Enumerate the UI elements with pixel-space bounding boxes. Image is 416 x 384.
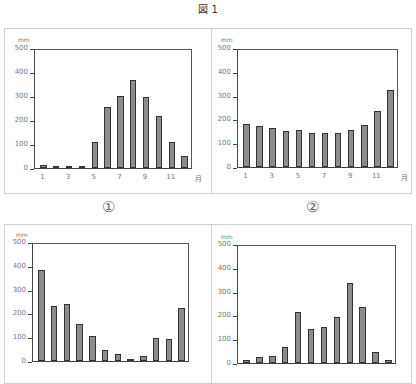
bar-month-2 [51,306,57,361]
bar-month-10 [156,116,162,168]
bar-month-6 [102,350,108,361]
y-tick-label: 300 [4,286,26,294]
y-tick-label: 200 [209,115,231,123]
bar-month-12 [181,156,187,168]
x-tick-label: 11 [164,173,178,181]
x-tick-label: 7 [317,172,331,180]
y-unit-label: mm [221,36,233,43]
y-unit-label: mm [16,231,28,238]
caption-chart-1: ① [88,198,128,216]
y-tick-label: 400 [209,264,231,272]
bar-month-5 [296,130,303,167]
bar-month-2 [256,357,262,363]
caption-chart-2: ② [292,198,332,216]
plot-area [237,245,396,364]
bar-month-4 [283,131,290,167]
bar-month-3 [64,304,70,361]
bar-month-9 [140,356,146,361]
x-tick-label: 11 [369,172,383,180]
bar-month-1 [243,124,250,167]
y-tick-label: 300 [209,288,231,296]
bar-month-2 [53,166,59,168]
y-tick-label: 0 [4,357,26,365]
bar-month-8 [130,80,136,169]
bar-month-4 [282,347,288,363]
bar-month-1 [243,360,249,364]
bar-month-10 [361,125,368,167]
y-tick-label: 100 [209,335,231,343]
bar-month-8 [334,317,340,363]
y-tick-label: 100 [6,140,28,148]
bar-month-6 [104,107,110,168]
x-tick-label: 1 [35,173,49,181]
y-tick-label: 500 [6,44,28,52]
x-tick-label: 7 [112,173,126,181]
y-tick-mark [30,169,34,170]
bar-month-6 [309,133,316,167]
y-tick-label: 400 [6,68,28,76]
bar-month-7 [321,327,327,363]
bar-month-12 [387,90,394,167]
y-tick-label: 0 [6,164,28,172]
bar-month-9 [347,283,353,363]
bar-month-12 [178,308,184,361]
bar-month-5 [92,142,98,168]
y-tick-label: 400 [209,68,231,76]
bar-month-3 [66,166,72,168]
x-axis-unit-label: 月 [401,172,408,182]
bar-month-1 [40,165,46,168]
plot-area [34,49,192,169]
y-tick-label: 500 [209,240,231,248]
y-tick-label: 100 [4,333,26,341]
y-tick-label: 300 [6,92,28,100]
x-tick-label: 5 [87,173,101,181]
y-tick-label: 400 [4,262,26,270]
bar-month-8 [127,359,133,361]
bar-month-11 [372,352,378,363]
y-tick-label: 500 [4,238,26,246]
y-tick-label: 100 [209,139,231,147]
bar-month-11 [374,111,381,167]
bar-month-4 [79,166,85,168]
bar-month-8 [335,133,342,167]
y-tick-label: 200 [4,309,26,317]
bar-month-7 [322,133,329,167]
figure-title: 図 1 [0,1,416,16]
bar-month-10 [153,338,159,361]
bar-month-2 [256,126,263,167]
bar-month-11 [169,142,175,168]
x-tick-label: 3 [265,172,279,180]
bar-month-6 [308,329,314,363]
x-tick-label: 1 [239,172,253,180]
bar-month-5 [295,312,301,363]
bar-month-5 [89,336,95,361]
bar-month-1 [38,270,44,361]
y-tick-label: 0 [209,359,231,367]
bar-month-3 [269,356,275,363]
bar-month-3 [269,128,276,167]
bar-month-9 [348,130,355,167]
bar-month-10 [359,307,365,363]
x-axis-unit-label: 月 [195,173,202,183]
bar-month-7 [115,354,121,361]
y-tick-label: 200 [6,116,28,124]
y-tick-label: 300 [209,92,231,100]
bar-month-11 [166,339,172,361]
plot-area [237,49,398,168]
x-tick-label: 9 [343,172,357,180]
plot-area [32,243,189,362]
x-tick-label: 9 [138,173,152,181]
x-tick-label: 5 [291,172,305,180]
x-tick-label: 3 [61,173,75,181]
y-tick-mark [233,168,237,169]
y-unit-label: mm [18,36,30,43]
bar-month-9 [143,97,149,168]
y-tick-label: 500 [209,44,231,52]
y-tick-mark [28,362,32,363]
y-unit-label: mm [221,233,233,240]
y-tick-label: 0 [209,163,231,171]
bar-month-12 [385,360,391,364]
y-tick-mark [233,364,237,365]
bar-month-4 [76,324,82,361]
bar-month-7 [117,96,123,168]
